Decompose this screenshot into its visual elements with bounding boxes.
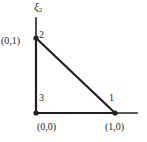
coordinate-label-top: (0,1) (1, 36, 20, 46)
vertex-dot-node-3 (33, 110, 38, 115)
coordinate-label-right: (1,0) (105, 122, 124, 132)
node-number-1: 1 (109, 93, 114, 103)
node-number-2: 2 (39, 30, 44, 40)
vertex-dot-node-2 (33, 35, 38, 40)
coordinate-label-origin: (0,0) (37, 122, 56, 132)
reference-triangle-figure: ξ2 2 3 1 (0,1) (0,0) (1,0) (0, 0, 147, 142)
triangle-edge-hypotenuse (36, 38, 115, 113)
node-number-3: 3 (39, 93, 44, 103)
vertical-axis-label: ξ2 (34, 1, 42, 14)
triangle-diagram-canvas (0, 0, 147, 142)
axis-label-subscript: 2 (39, 6, 43, 14)
vertex-dot-node-1 (112, 110, 117, 115)
